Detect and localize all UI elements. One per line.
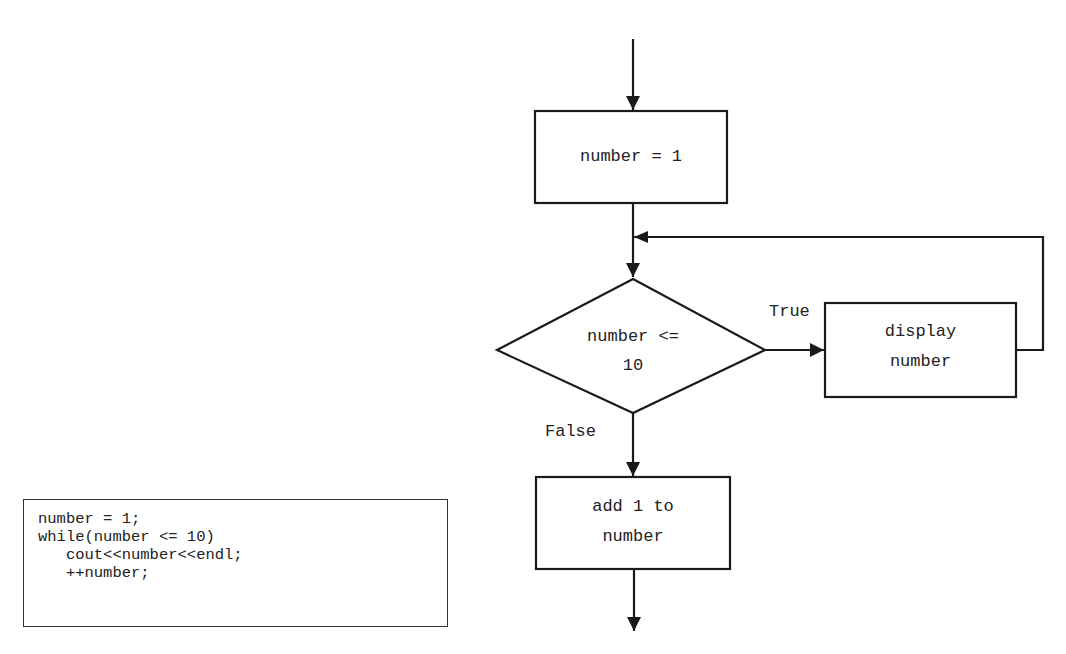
display-label-line-1: display (825, 317, 1016, 347)
increment-label-line-1: add 1 to (536, 492, 730, 522)
false-label: False (545, 422, 596, 441)
code-line: while(number <= 10) (38, 528, 433, 546)
code-snippet-box: number = 1; while(number <= 10) cout<<nu… (23, 499, 448, 627)
condition-label-line-1: number <= (535, 322, 731, 352)
condition-label-line-2: 10 (535, 351, 731, 381)
increment-label-line-2: number (536, 522, 730, 552)
code-line: number = 1; (38, 510, 433, 528)
init-label: number = 1 (535, 142, 727, 172)
code-line: cout<<number<<endl; (38, 546, 433, 564)
code-line: ++number; (38, 564, 433, 582)
true-label: True (769, 302, 810, 321)
display-label-line-2: number (825, 347, 1016, 377)
